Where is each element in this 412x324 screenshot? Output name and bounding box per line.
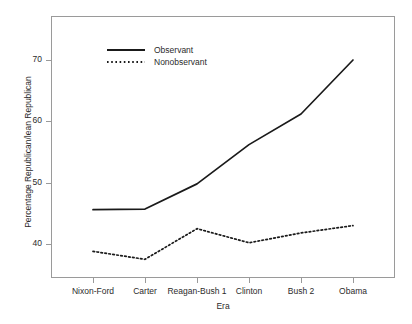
x-tick-label-reagan-bush-1: Reagan-Bush 1 xyxy=(167,286,226,296)
x-tick-label-carter: Carter xyxy=(133,286,157,296)
plot-area-frame xyxy=(51,16,395,278)
x-axis-title: Era xyxy=(51,301,395,311)
legend-label-nonobservant: Nonobservant xyxy=(154,57,207,67)
legend-entry-nonobservant: Nonobservant xyxy=(106,56,207,68)
legend-swatch-dotted-line-icon xyxy=(106,57,146,67)
y-axis-title: Percentage Republican/lean Republican xyxy=(23,62,33,242)
legend-label-observant: Observant xyxy=(154,45,193,55)
legend-swatch-solid-line-icon xyxy=(106,45,146,55)
x-tick-label-obama: Obama xyxy=(339,286,367,296)
chart-legend: Observant Nonobservant xyxy=(106,44,207,68)
x-tick-label-nixon-ford: Nixon-Ford xyxy=(72,286,114,296)
legend-entry-observant: Observant xyxy=(106,44,207,56)
x-tick-label-bush-2: Bush 2 xyxy=(288,286,314,296)
chart-figure: 70 60 50 40 Nixon-Ford Carter Reagan-Bus… xyxy=(0,0,412,324)
x-tick-label-clinton: Clinton xyxy=(236,286,262,296)
